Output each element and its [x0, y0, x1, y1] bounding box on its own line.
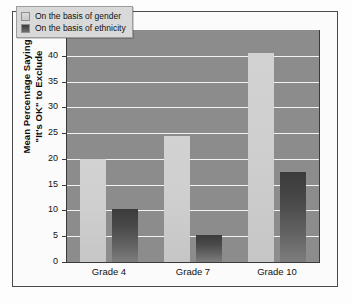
y-axis-tick-mark [62, 236, 67, 237]
y-axis-tick-label: 10 [42, 205, 58, 214]
y-axis-tick-mark [62, 210, 67, 211]
x-axis-tick-label: Grade 10 [235, 266, 319, 278]
x-axis-tick-label: Grade 7 [151, 266, 235, 278]
y-axis-tick-label: 40 [42, 51, 58, 60]
legend-swatch-ethnicity-icon [21, 24, 30, 33]
x-axis-tick-labels: Grade 4Grade 7Grade 10 [67, 266, 319, 282]
y-axis-line [66, 29, 67, 263]
bar-gender-grade-10 [248, 53, 274, 262]
gridline [67, 107, 319, 108]
y-axis-tick-label: 15 [42, 180, 58, 189]
y-axis-tick-mark [62, 82, 67, 83]
y-axis-tick-label: 5 [42, 231, 58, 240]
x-axis-line [66, 262, 320, 263]
y-axis-tick-label: 35 [42, 77, 58, 86]
legend-item-ethnicity: On the basis of ethnicity [21, 22, 126, 34]
legend-label-gender: On the basis of gender [35, 11, 121, 21]
chart-legend: On the basis of gender On the basis of e… [16, 6, 133, 38]
y-axis-tick-mark [62, 133, 67, 134]
y-axis-tick-label: 30 [42, 102, 58, 111]
y-axis-tick-mark [62, 262, 67, 263]
plot-area [67, 30, 320, 262]
y-axis-tick-mark [62, 185, 67, 186]
y-axis-tick-label: 25 [42, 128, 58, 137]
gridline [67, 133, 319, 134]
legend-swatch-gender-icon [21, 12, 30, 21]
y-axis-tick-mark [62, 159, 67, 160]
y-axis-tick-label: 20 [42, 154, 58, 163]
bar-ethnicity-grade-4 [112, 209, 138, 262]
chart-figure: 454035302520151050 Mean Percentage Sayin… [0, 0, 352, 303]
y-axis-tick-label: 0 [42, 257, 58, 266]
y-axis-tick-mark [62, 107, 67, 108]
y-axis-tick-mark [62, 56, 67, 57]
x-axis-tick-label: Grade 4 [67, 266, 151, 278]
legend-item-gender: On the basis of gender [21, 10, 126, 22]
legend-label-ethnicity: On the basis of ethnicity [35, 23, 126, 33]
bar-gender-grade-7 [164, 136, 190, 262]
bar-ethnicity-grade-7 [196, 235, 222, 262]
gridline [67, 56, 319, 57]
bar-gender-grade-4 [80, 159, 106, 262]
gridline [67, 82, 319, 83]
bar-ethnicity-grade-10 [280, 172, 306, 262]
